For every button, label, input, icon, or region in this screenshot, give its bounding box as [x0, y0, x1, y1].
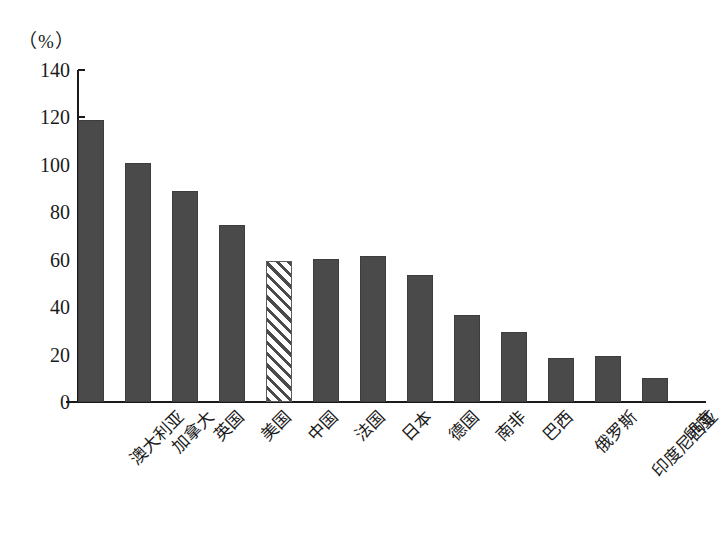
- x-axis-label-法国: 法国: [352, 408, 389, 445]
- y-axis-unit-label: （%）: [18, 26, 75, 53]
- bar-南非: [454, 315, 480, 402]
- x-axis-label-德国: 德国: [446, 408, 483, 445]
- x-axis-label-巴西: 巴西: [540, 408, 577, 445]
- bar-日本: [360, 256, 386, 402]
- y-tick-label: 80: [50, 202, 70, 222]
- bar-俄罗斯: [548, 358, 574, 402]
- y-tick-mark: [78, 69, 85, 71]
- y-tick-label: 120: [40, 107, 70, 127]
- x-axis-label-美国: 美国: [258, 408, 295, 445]
- plot-area: 140120100806040200: [78, 70, 706, 402]
- y-tick-label: 0: [60, 392, 70, 412]
- y-tick-label: 20: [50, 345, 70, 365]
- x-axis-label-英国: 英国: [211, 408, 248, 445]
- bar-印度尼西亚: [595, 356, 621, 402]
- y-tick-label: 40: [50, 297, 70, 317]
- bar-中国: [266, 261, 292, 402]
- y-tick-label: 60: [50, 250, 70, 270]
- bar-澳大利亚: [78, 120, 104, 402]
- x-axis-label-南非: 南非: [493, 408, 530, 445]
- y-tick-label: 100: [40, 155, 70, 175]
- bar-印度: [642, 378, 668, 402]
- bar-法国: [313, 259, 339, 402]
- bar-英国: [172, 191, 198, 402]
- bar-加拿大: [125, 163, 151, 403]
- x-axis-label-日本: 日本: [399, 408, 436, 445]
- x-axis-label-中国: 中国: [305, 408, 342, 445]
- bar-美国: [219, 225, 245, 402]
- bar-巴西: [501, 332, 527, 402]
- x-axis-label-俄罗斯: 俄罗斯: [592, 408, 641, 457]
- y-tick-mark: [78, 116, 85, 118]
- bar-德国: [407, 275, 433, 402]
- y-tick-label: 140: [40, 60, 70, 80]
